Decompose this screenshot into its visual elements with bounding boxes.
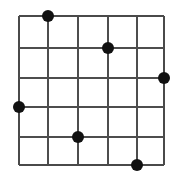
dot-markers-group — [13, 10, 170, 171]
data-point-marker-4 — [13, 101, 25, 113]
data-point-marker-3 — [158, 72, 170, 84]
figure-canvas: Grid with marked intersection points — [0, 0, 180, 179]
data-point-marker-1 — [42, 10, 54, 22]
vertical-gridlines — [19, 16, 164, 165]
data-point-marker-5 — [72, 131, 84, 143]
grid-plot — [0, 0, 180, 179]
data-point-marker-2 — [102, 42, 114, 54]
horizontal-gridlines — [19, 16, 164, 165]
data-point-marker-6 — [131, 159, 143, 171]
